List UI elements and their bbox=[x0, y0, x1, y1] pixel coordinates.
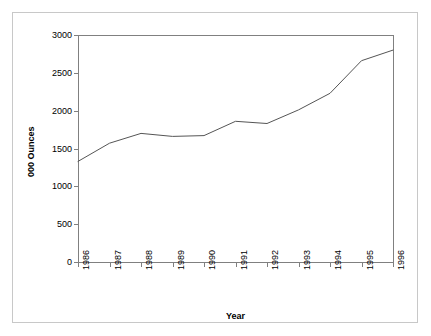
x-axis-title: Year bbox=[78, 311, 393, 321]
y-tick-mark bbox=[74, 111, 78, 112]
x-tick-label: 1987 bbox=[114, 250, 123, 270]
y-tick-label: 2000 bbox=[28, 107, 72, 116]
y-tick-label: 0 bbox=[28, 258, 72, 267]
x-tick-label: 1988 bbox=[145, 250, 154, 270]
y-tick-label: 3000 bbox=[28, 31, 72, 40]
x-tick-mark bbox=[330, 263, 331, 267]
y-tick-label: 1000 bbox=[28, 182, 72, 191]
y-tick-mark bbox=[74, 186, 78, 187]
y-axis-title: 000 Ounces bbox=[26, 126, 36, 177]
x-tick-label: 1995 bbox=[366, 250, 375, 270]
x-tick-mark bbox=[267, 263, 268, 267]
x-tick-label: 1986 bbox=[82, 250, 91, 270]
chart-canvas: 050010001500200025003000 198619871988198… bbox=[0, 0, 431, 336]
x-tick-label: 1991 bbox=[240, 250, 249, 270]
y-tick-mark bbox=[74, 35, 78, 36]
x-tick-mark bbox=[204, 263, 205, 267]
plot-area bbox=[78, 35, 394, 263]
x-tick-mark bbox=[362, 263, 363, 267]
x-tick-mark bbox=[110, 263, 111, 267]
y-tick-mark bbox=[74, 149, 78, 150]
y-tick-mark bbox=[74, 73, 78, 74]
y-tick-mark bbox=[74, 224, 78, 225]
x-tick-mark bbox=[299, 263, 300, 267]
x-tick-mark bbox=[393, 263, 394, 267]
x-tick-label: 1992 bbox=[271, 250, 280, 270]
y-tick-label: 2500 bbox=[28, 69, 72, 78]
x-tick-label: 1989 bbox=[177, 250, 186, 270]
x-tick-mark bbox=[236, 263, 237, 267]
x-tick-mark bbox=[173, 263, 174, 267]
x-tick-mark bbox=[141, 263, 142, 267]
x-tick-label: 1993 bbox=[303, 250, 312, 270]
x-tick-label: 1994 bbox=[334, 250, 343, 270]
x-tick-mark bbox=[78, 263, 79, 267]
y-tick-label: 500 bbox=[28, 220, 72, 229]
x-tick-label: 1990 bbox=[208, 250, 217, 270]
x-tick-label: 1996 bbox=[397, 250, 406, 270]
